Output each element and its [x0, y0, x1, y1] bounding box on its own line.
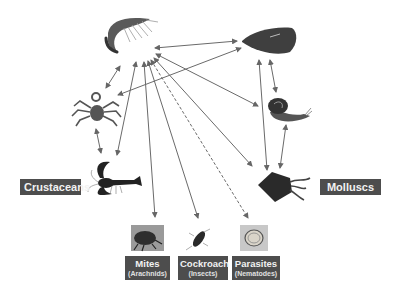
- mites-sublabel: (Arachnids): [127, 269, 168, 278]
- organisms-layer: [0, 0, 401, 293]
- group-label-molluscs: Molluscs: [320, 179, 381, 195]
- snail-icon: [268, 98, 312, 121]
- node-label-parasites: Parasites (Nematodes): [232, 256, 280, 280]
- mussel-icon: [242, 28, 296, 54]
- lobster-icon: [88, 162, 142, 195]
- node-label-cockroach: Cockroach (Insects): [178, 256, 228, 280]
- shrimp-icon: [106, 18, 158, 52]
- parasites-sublabel: (Nematodes): [234, 269, 278, 278]
- parasites-label: Parasites: [235, 258, 277, 269]
- nematode-icon: [240, 225, 268, 251]
- allergen-cross-reactivity-diagram: Crustaceans Molluscs Mites (Arachnids) C…: [0, 0, 401, 293]
- mites-label: Mites: [135, 258, 159, 269]
- cockroach-icon: [186, 229, 210, 250]
- cockroach-sublabel: (Insects): [180, 269, 226, 278]
- mite-icon: [131, 225, 164, 251]
- crab-icon: [72, 93, 121, 126]
- cockroach-label: Cockroach: [180, 258, 229, 269]
- group-label-crustaceans: Crustaceans: [20, 179, 81, 195]
- node-label-mites: Mites (Arachnids): [125, 256, 170, 280]
- squid-icon: [258, 172, 310, 202]
